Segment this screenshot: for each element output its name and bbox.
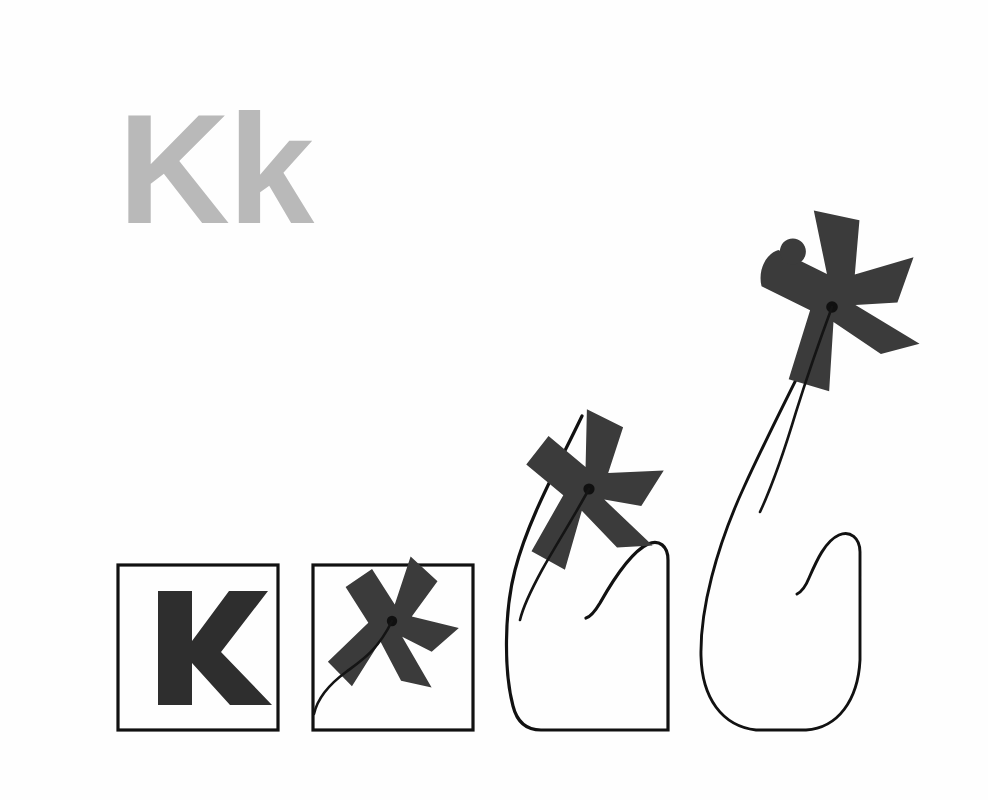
illustration-canvas: Kk	[0, 0, 988, 800]
kite-string-4	[760, 307, 832, 512]
panel-4-frame	[701, 300, 860, 730]
panel-kite-flying	[701, 193, 954, 730]
panel-kite-rising	[487, 394, 698, 730]
panel-letter-k	[118, 565, 278, 730]
letter-k-glyph	[158, 591, 272, 705]
kite-body-2	[298, 540, 486, 728]
panel-k-becomes-kite	[298, 540, 486, 730]
kite-morph-illustration	[0, 0, 988, 800]
kite-body-4	[727, 193, 954, 420]
